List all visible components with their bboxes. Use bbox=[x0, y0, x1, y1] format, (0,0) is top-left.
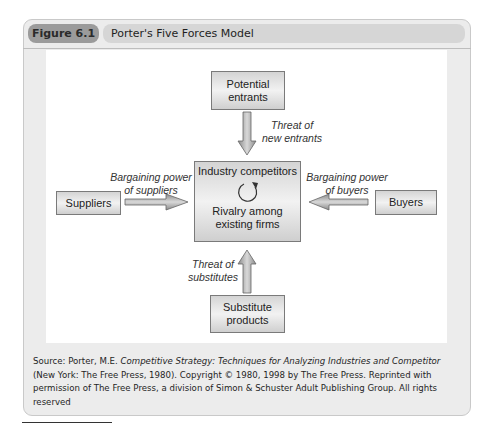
rivalry-line1: Rivalry among bbox=[212, 205, 282, 218]
suppliers-label: Suppliers bbox=[66, 197, 112, 210]
source-caption: Source: Porter, M.E. Competitive Strateg… bbox=[33, 355, 463, 409]
industry-competitors-title: Industry competitors bbox=[198, 165, 297, 178]
arrow-up-icon bbox=[238, 250, 256, 293]
cycle-arrow-icon bbox=[233, 180, 263, 204]
arrow-down-icon bbox=[238, 112, 256, 155]
book-title: Competitive Strategy: Techniques for Ana… bbox=[121, 356, 441, 366]
threat-substitutes-label: Threat of substitutes bbox=[186, 258, 240, 283]
industry-competitors-box: Industry competitors Rivalry among exist… bbox=[194, 161, 301, 242]
substitute-line1: Substitute bbox=[223, 301, 272, 314]
substitute-line2: products bbox=[226, 314, 268, 327]
substitute-products-box: Substitute products bbox=[210, 295, 285, 333]
arrow-right-icon bbox=[125, 194, 188, 210]
threat-new-entrants-label: Threat of new entrants bbox=[262, 119, 322, 144]
buyers-label: Buyers bbox=[389, 196, 423, 209]
potential-entrants-line1: Potential bbox=[227, 78, 270, 91]
potential-entrants-box: Potential entrants bbox=[211, 71, 285, 110]
arrow-left-icon bbox=[309, 194, 368, 210]
footnote-rule bbox=[22, 422, 112, 423]
rivalry-line2: existing firms bbox=[215, 218, 279, 231]
bargaining-buyers-label: Bargaining power of buyers bbox=[301, 171, 393, 196]
bargaining-suppliers-label: Bargaining power of suppliers bbox=[104, 171, 198, 196]
potential-entrants-line2: entrants bbox=[228, 91, 268, 104]
